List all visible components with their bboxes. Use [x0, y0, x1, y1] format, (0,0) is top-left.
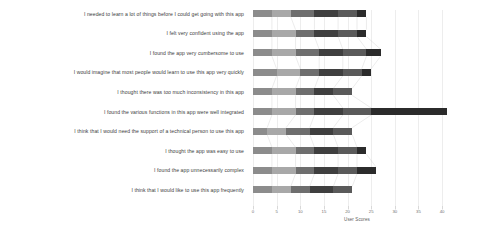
bar-segment	[296, 108, 315, 115]
category-label: I found the app unnecessarily complex	[0, 167, 244, 173]
bar-segment	[253, 167, 272, 174]
x-axis-title: User Scores	[253, 217, 461, 222]
bar-segment	[253, 10, 272, 17]
bar-segment	[286, 128, 310, 135]
category-label: I would imagine that most people would l…	[0, 69, 244, 75]
category-label: I needed to learn a lot of things before…	[0, 11, 244, 17]
bar-segment	[314, 167, 338, 174]
bar-segment	[310, 186, 334, 193]
category-label: I thought the app was easy to use	[0, 148, 244, 154]
category-label: I thought there was too much inconsisten…	[0, 89, 244, 95]
bar-segment	[253, 147, 272, 154]
bar-segment	[310, 128, 334, 135]
category-label: I found the various functions in this ap…	[0, 109, 244, 115]
bar-segment	[338, 10, 357, 17]
bar-segment	[272, 186, 291, 193]
x-tick-label: 15	[322, 209, 327, 214]
x-tick-label: 10	[298, 209, 303, 214]
bar-segment	[253, 128, 267, 135]
bar-segment	[357, 30, 366, 37]
bar-row	[253, 69, 371, 76]
bar-segment	[291, 10, 315, 17]
bar-segment	[253, 108, 272, 115]
bar-segment	[272, 30, 296, 37]
bar-segment	[333, 88, 352, 95]
bar-segment	[314, 10, 338, 17]
category-label: I found the app very cumbersome to use	[0, 50, 244, 56]
bar-row	[253, 186, 352, 193]
bar-row	[253, 108, 447, 115]
bar-segment	[272, 49, 296, 56]
bar-segment	[291, 186, 310, 193]
bar-segment	[300, 69, 319, 76]
x-tick-label: 5	[275, 209, 277, 214]
bar-segment	[272, 108, 296, 115]
category-label: I felt very confident using the app	[0, 30, 244, 36]
sus-stacked-bar-chart: I needed to learn a lot of things before…	[0, 0, 485, 241]
bar-segment	[371, 108, 447, 115]
x-tick-label: 35	[416, 209, 421, 214]
bar-segment	[296, 147, 315, 154]
bar-segment	[366, 49, 380, 56]
bar-row	[253, 49, 381, 56]
bars	[253, 10, 461, 206]
bar-row	[253, 30, 366, 37]
bar-segment	[357, 167, 376, 174]
x-tick-label: 30	[392, 209, 397, 214]
x-tick-label: 40	[440, 209, 445, 214]
bar-segment	[343, 69, 362, 76]
bar-segment	[338, 30, 357, 37]
bar-segment	[267, 128, 286, 135]
bar-segment	[253, 49, 272, 56]
bar-segment	[338, 167, 357, 174]
bar-segment	[253, 69, 277, 76]
bar-row	[253, 128, 352, 135]
x-axis: User Scores 0510152025303540	[253, 206, 461, 228]
x-tick-label: 25	[369, 209, 374, 214]
bar-segment	[272, 167, 296, 174]
category-label-column: I needed to learn a lot of things before…	[0, 0, 248, 205]
bar-segment	[272, 10, 291, 17]
bar-segment	[296, 49, 320, 56]
bar-segment	[296, 167, 315, 174]
bar-segment	[253, 88, 272, 95]
bar-segment	[314, 30, 338, 37]
bar-row	[253, 167, 376, 174]
bar-segment	[338, 147, 357, 154]
x-tick-label: 20	[345, 209, 350, 214]
bar-segment	[296, 30, 315, 37]
bar-segment	[357, 10, 366, 17]
category-label: I think that I would like to use this ap…	[0, 187, 244, 193]
bar-row	[253, 88, 352, 95]
bar-segment	[357, 147, 366, 154]
plot-area	[253, 10, 461, 206]
bar-segment	[333, 128, 352, 135]
bar-segment	[253, 30, 272, 37]
bar-segment	[333, 186, 352, 193]
bar-segment	[296, 88, 315, 95]
bar-segment	[272, 147, 296, 154]
category-label: I think that I would need the support of…	[0, 128, 244, 134]
bar-segment	[314, 88, 333, 95]
bar-segment	[314, 147, 338, 154]
bar-segment	[319, 69, 343, 76]
bar-segment	[319, 49, 343, 56]
bar-row	[253, 10, 366, 17]
bar-row	[253, 147, 366, 154]
bar-segment	[314, 108, 342, 115]
bar-segment	[343, 49, 367, 56]
bar-segment	[277, 69, 301, 76]
bar-segment	[343, 108, 371, 115]
x-tick-label: 0	[252, 209, 254, 214]
bar-segment	[362, 69, 371, 76]
bar-segment	[272, 88, 296, 95]
bar-segment	[253, 186, 272, 193]
